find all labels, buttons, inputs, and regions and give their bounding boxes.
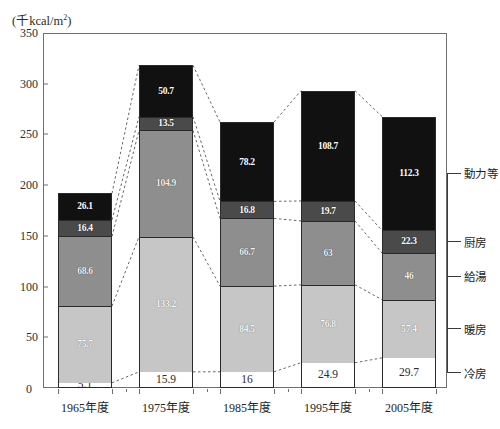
bar-segment-給湯[interactable]: 63	[301, 221, 355, 285]
bar-segment-value-label: 15.9	[156, 374, 176, 386]
x-axis-minor-tick-mark	[288, 389, 289, 392]
bar-segment-動力等[interactable]: 78.2	[220, 122, 274, 201]
bar-segment-動力等[interactable]: 50.7	[139, 65, 193, 116]
x-axis-minor-tick-mark	[369, 389, 370, 392]
bar-segment-value-label: 22.3	[401, 237, 416, 247]
bar-segment-暖房[interactable]: 75.7	[58, 306, 112, 383]
legend-leader-line	[447, 372, 461, 373]
y-axis-tick-label: 250	[20, 127, 38, 142]
bar-segment-暖房[interactable]: 76.8	[301, 285, 355, 363]
bar-segment-value-label: 84.5	[239, 325, 254, 335]
bar-segment-value-label: 63	[324, 249, 333, 259]
bar-segment-給湯[interactable]: 104.9	[139, 130, 193, 236]
bar-segment-動力等[interactable]: 112.3	[382, 117, 436, 231]
bar-segment-暖房[interactable]: 84.5	[220, 286, 274, 372]
bar-1965年度[interactable]: 5.175.768.616.426.1	[58, 193, 112, 388]
legend-item-label: 暖房	[464, 321, 487, 337]
unit-caption-close: )	[67, 14, 71, 28]
stacked-bar-chart: (千kcal/m2) 50100150200250300350 5.175.76…	[0, 0, 500, 429]
legend-item-給湯[interactable]: 給湯	[447, 268, 487, 284]
x-axis-tick-mark	[112, 389, 113, 394]
x-axis-tick-mark	[301, 389, 302, 394]
x-axis-tick-mark	[139, 389, 140, 394]
y-axis-tick-label: 350	[20, 26, 38, 41]
bar-segment-value-label: 26.1	[77, 202, 92, 212]
legend-leader-line	[447, 241, 461, 242]
bar-segment-厨房[interactable]: 22.3	[382, 230, 436, 253]
bar-1975年度[interactable]: 15.9133.2104.913.550.7	[139, 65, 193, 388]
bar-segment-動力等[interactable]: 108.7	[301, 91, 355, 201]
legend-item-冷房[interactable]: 冷房	[447, 365, 487, 381]
bar-2005年度[interactable]: 29.757.44622.3112.3	[382, 117, 436, 388]
x-axis-minor-tick-mark	[126, 389, 127, 392]
bar-segment-value-label: 108.7	[318, 142, 338, 152]
bar-segment-value-label: 104.9	[156, 179, 176, 189]
bar-segment-value-label: 5.1	[78, 383, 92, 388]
bar-segment-value-label: 66.7	[239, 248, 254, 258]
bar-segment-value-label: 46	[405, 272, 414, 282]
bar-segment-給湯[interactable]: 68.6	[58, 236, 112, 306]
bar-segment-冷房[interactable]: 24.9	[301, 363, 355, 388]
bar-segment-value-label: 76.8	[320, 320, 335, 330]
bar-segment-冷房[interactable]: 5.1	[58, 383, 112, 388]
x-axis-tick-mark	[382, 389, 383, 394]
bar-1995年度[interactable]: 24.976.86319.7108.7	[301, 91, 355, 388]
legend-item-label: 冷房	[464, 365, 487, 381]
legend: 動力等厨房給湯暖房冷房	[447, 33, 500, 389]
bar-segment-厨房[interactable]: 16.4	[58, 220, 112, 237]
bar-segment-value-label: 16	[241, 374, 253, 386]
bar-segment-value-label: 29.7	[399, 367, 419, 379]
bar-1985年度[interactable]: 1684.566.716.878.2	[220, 122, 274, 388]
y-axis-tick-label: 300	[20, 76, 38, 91]
y-axis-tick-label: 200	[20, 178, 38, 193]
y-axis-zero-label: 0	[26, 382, 32, 397]
x-axis-tick-label: 1985年度	[223, 398, 271, 416]
bar-segment-暖房[interactable]: 57.4	[382, 300, 436, 358]
legend-leader-line	[447, 328, 461, 329]
bar-segment-冷房[interactable]: 16	[220, 372, 274, 388]
legend-leader-line	[447, 173, 461, 174]
x-axis-tick-label: 1995年度	[304, 398, 352, 416]
x-axis-minor-tick-mark	[207, 389, 208, 392]
bar-segment-給湯[interactable]: 46	[382, 253, 436, 300]
bar-segment-value-label: 19.7	[320, 207, 335, 217]
legend-item-暖房[interactable]: 暖房	[447, 321, 487, 337]
bar-segment-value-label: 68.6	[77, 267, 92, 277]
bar-segment-value-label: 16.8	[239, 206, 254, 216]
x-axis-tick-label: 2005年度	[385, 398, 433, 416]
x-axis-tick-mark	[193, 389, 194, 394]
legend-item-label: 給湯	[464, 268, 487, 284]
y-axis: 50100150200250300350	[0, 33, 43, 389]
bar-segment-value-label: 16.4	[77, 224, 92, 234]
x-axis-tick-mark	[58, 389, 59, 394]
x-axis-tick-label: 1975年度	[142, 398, 190, 416]
bar-segment-冷房[interactable]: 29.7	[382, 358, 436, 388]
legend-item-厨房[interactable]: 厨房	[447, 234, 487, 250]
x-axis: 1965年度1975年度1985年度1995年度2005年度	[43, 389, 447, 423]
bar-segment-value-label: 50.7	[158, 87, 173, 97]
bar-segment-動力等[interactable]: 26.1	[58, 193, 112, 219]
bar-segment-value-label: 133.2	[156, 300, 176, 310]
bar-segment-value-label: 57.4	[401, 325, 416, 335]
bar-segment-給湯[interactable]: 66.7	[220, 218, 274, 286]
bar-segment-厨房[interactable]: 16.8	[220, 201, 274, 218]
x-axis-tick-mark	[436, 389, 437, 394]
bar-segment-value-label: 112.3	[399, 169, 418, 179]
bar-segment-value-label: 24.9	[318, 369, 338, 381]
x-axis-tick-mark	[220, 389, 221, 394]
bar-segment-value-label: 78.2	[239, 158, 254, 168]
bar-segment-value-label: 13.5	[158, 119, 173, 129]
bar-segment-厨房[interactable]: 13.5	[139, 117, 193, 131]
bars-layer: 5.175.768.616.426.115.9133.2104.913.550.…	[43, 33, 447, 388]
legend-item-動力等[interactable]: 動力等	[447, 165, 498, 181]
x-axis-tick-label: 1965年度	[61, 398, 109, 416]
legend-leader-line	[447, 276, 461, 277]
legend-item-label: 厨房	[464, 234, 487, 250]
x-axis-tick-mark	[355, 389, 356, 394]
bar-segment-冷房[interactable]: 15.9	[139, 372, 193, 388]
legend-item-label: 動力等	[464, 165, 498, 181]
x-axis-tick-mark	[274, 389, 275, 394]
bar-segment-厨房[interactable]: 19.7	[301, 201, 355, 221]
bar-segment-value-label: 75.7	[77, 340, 92, 350]
bar-segment-暖房[interactable]: 133.2	[139, 237, 193, 372]
